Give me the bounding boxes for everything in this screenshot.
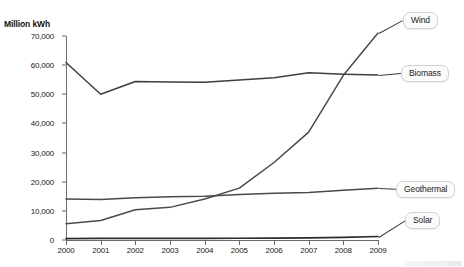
legend-label-solar[interactable]: Solar	[405, 212, 440, 229]
legend-label-biomass[interactable]: Biomass	[401, 65, 449, 82]
line-chart: Million kWh 010,00020,00030,00040,00050,…	[0, 0, 464, 267]
corner-artifact	[404, 261, 462, 266]
legend-label-wind[interactable]: Wind	[403, 12, 438, 29]
series-line-solar	[66, 237, 378, 239]
series-line-biomass	[66, 63, 378, 95]
legend-label-geothermal[interactable]: Geothermal	[396, 181, 455, 198]
